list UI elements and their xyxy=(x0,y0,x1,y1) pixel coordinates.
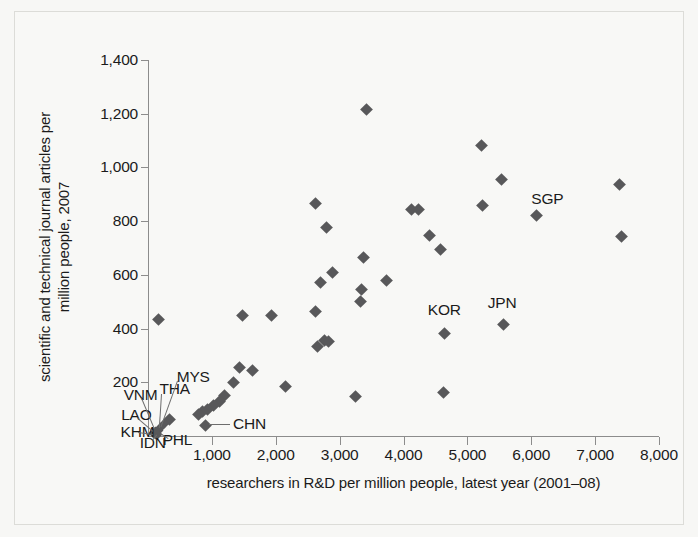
x-tick xyxy=(212,437,213,445)
y-tick-label: 1,200 xyxy=(64,105,138,123)
y-tick xyxy=(141,114,149,115)
annotation-jpn: JPN xyxy=(488,294,517,312)
y-tick xyxy=(141,60,149,61)
annotation-chn: CHN xyxy=(233,415,266,433)
x-tick xyxy=(340,437,341,445)
y-tick xyxy=(141,275,149,276)
y-tick-label: 1,000 xyxy=(64,158,138,176)
y-tick-label: 800 xyxy=(64,212,138,230)
y-tick-label: 400 xyxy=(64,320,138,338)
y-axis-line xyxy=(148,60,149,437)
annotation-phl: PHL xyxy=(163,431,193,449)
x-tick xyxy=(659,437,660,445)
x-tick xyxy=(531,437,532,445)
x-tick xyxy=(467,437,468,445)
y-tick xyxy=(141,382,149,383)
annotation-vnm: VNM xyxy=(124,386,158,404)
y-tick xyxy=(141,329,149,330)
y-tick-label: 1,400 xyxy=(64,51,138,69)
x-tick-label: 8,000 xyxy=(619,446,698,464)
y-tick-label: 600 xyxy=(64,266,138,284)
x-axis-title: researchers in R&D per million people, l… xyxy=(148,474,659,491)
annotation-sgp: SGP xyxy=(531,190,563,208)
y-tick xyxy=(141,167,149,168)
annotation-kor: KOR xyxy=(428,301,461,319)
y-tick-label-wrap: 1,400 xyxy=(58,51,138,69)
x-tick xyxy=(595,437,596,445)
y-tick xyxy=(141,221,149,222)
x-tick xyxy=(276,437,277,445)
x-tick xyxy=(404,437,405,445)
y-axis-title: scientific and technical journal article… xyxy=(35,97,73,397)
figure-container: 2004006008001,0001,2001,4001,0002,0003,0… xyxy=(0,0,698,537)
